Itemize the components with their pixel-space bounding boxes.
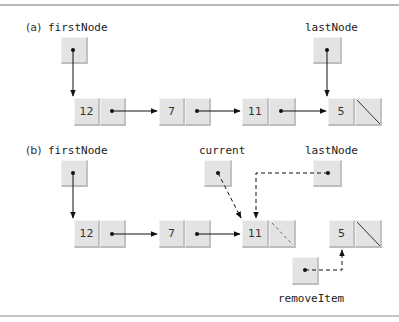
lastnode-label-a: lastNode — [305, 21, 358, 34]
firstnode-label-b: firstNode — [48, 144, 108, 157]
part-a-label: (a) — [26, 21, 41, 34]
node-b-3-null — [355, 220, 382, 248]
node-b-3-data: 5 — [329, 220, 355, 248]
node-a-2-next — [269, 98, 296, 126]
lastnode-pointer-box-b — [313, 160, 342, 187]
node-b-2-next — [269, 220, 296, 248]
node-b-0-data: 12 — [74, 220, 100, 248]
node-a-3-data: 5 — [328, 98, 355, 126]
node-a-0-next — [100, 98, 126, 126]
firstnode-pointer-box-a — [61, 37, 88, 64]
lastnode-label-b: lastNode — [305, 144, 358, 157]
top-rule — [0, 4, 399, 6]
node-a-2-data: 11 — [242, 98, 269, 126]
node-a-1-next — [185, 98, 211, 126]
node-a-1-data: 7 — [159, 98, 185, 126]
node-a-0-data: 12 — [74, 98, 100, 126]
firstnode-label-a: firstNode — [48, 21, 108, 34]
lastnode-pointer-box-a — [313, 37, 342, 64]
node-b-0-next — [100, 220, 126, 248]
firstnode-pointer-box-b — [61, 160, 88, 187]
current-pointer-box — [204, 160, 232, 187]
bottom-rule — [0, 315, 399, 317]
current-label: current — [199, 144, 245, 157]
node-b-1-data: 7 — [159, 220, 185, 248]
node-b-2-data: 11 — [242, 220, 269, 248]
part-b-label: (b) — [26, 144, 42, 157]
node-b-1-next — [185, 220, 211, 248]
node-a-3-null — [355, 98, 382, 126]
removeitem-label: removeItem — [278, 292, 344, 305]
removeitem-pointer-box — [292, 257, 319, 285]
